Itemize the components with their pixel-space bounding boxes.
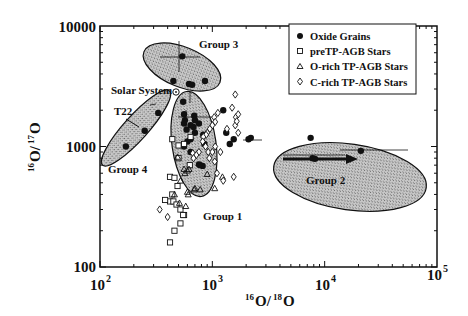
- x-tick-1e3: 10 3: [202, 273, 223, 293]
- open-diamond-point: [236, 129, 241, 136]
- filled-circle-point: [220, 107, 226, 113]
- svg-text:18: 18: [273, 292, 283, 302]
- open-diamond-point: [231, 173, 236, 180]
- open-square-point: [178, 207, 183, 212]
- legend: Oxide Grains preTP-AGB Stars O-rich TP-A…: [289, 24, 416, 94]
- solar-system-label: Solar System: [111, 84, 172, 96]
- filled-circle-point: [180, 99, 186, 105]
- legend-filled-circle-icon: [297, 33, 303, 39]
- y-axis-title: 16 O/ 17 O: [26, 122, 43, 172]
- open-diamond-point: [233, 91, 238, 98]
- svg-text:O: O: [283, 293, 295, 309]
- filled-circle-point: [179, 53, 185, 59]
- svg-text:O/: O/: [255, 293, 272, 309]
- svg-text:10: 10: [90, 277, 105, 293]
- svg-text:2: 2: [106, 273, 111, 284]
- group1-label: Group 1: [203, 210, 242, 222]
- x-tick-1e2: 10 2: [90, 273, 111, 293]
- scatter-chart: Group 3 Solar System T22 Group 4 Group 1…: [0, 0, 468, 316]
- legend-label-crich-tp-agb: C-rich TP-AGB Stars: [310, 77, 407, 88]
- svg-text:10: 10: [202, 277, 217, 293]
- svg-text:4: 4: [331, 273, 336, 284]
- filled-circle-point: [189, 82, 195, 88]
- group3-label: Group 3: [199, 38, 239, 50]
- group2-label: Group 2: [306, 174, 346, 186]
- open-diamond-point: [215, 109, 220, 116]
- filled-circle-point: [191, 113, 197, 119]
- filled-circle-point: [196, 161, 202, 167]
- filled-circle-point: [307, 135, 313, 141]
- legend-label-orich-tp-agb: O-rich TP-AGB Stars: [310, 61, 408, 72]
- filled-circle-point: [183, 126, 189, 132]
- legend-label-pretp-agb: preTP-AGB Stars: [310, 46, 391, 57]
- y-tick-1000: 1000: [66, 139, 96, 155]
- group4-ellipse: [94, 83, 179, 173]
- open-square-point: [163, 197, 168, 202]
- filled-circle-point: [227, 141, 233, 147]
- svg-text:17: 17: [26, 135, 36, 145]
- filled-circle-point: [123, 143, 129, 149]
- x-axis-title: 16 O/ 18 O: [245, 292, 295, 309]
- svg-text:10: 10: [315, 277, 330, 293]
- open-triangle-point: [183, 203, 189, 208]
- svg-text:O/: O/: [27, 145, 43, 162]
- group4-label: Group 4: [108, 163, 148, 175]
- open-diamond-point: [218, 148, 223, 155]
- y-tick-10000: 10000: [59, 19, 97, 35]
- filled-circle-point: [196, 120, 202, 126]
- open-diamond-point: [157, 206, 162, 213]
- filled-circle-point: [202, 78, 208, 84]
- svg-text:O: O: [27, 122, 43, 134]
- filled-circle-point: [155, 110, 161, 116]
- open-diamond-point: [230, 104, 235, 111]
- svg-text:16: 16: [26, 163, 36, 173]
- open-square-point: [167, 240, 172, 245]
- y-tick-100: 100: [74, 259, 97, 275]
- open-square-point: [170, 137, 175, 142]
- filled-circle-point: [358, 148, 364, 154]
- t22-label: T22: [114, 105, 133, 117]
- open-diamond-point: [165, 213, 170, 220]
- open-square-point: [172, 228, 177, 233]
- svg-text:5: 5: [443, 263, 448, 274]
- open-square-point: [181, 212, 186, 217]
- group2-ellipse: [269, 134, 431, 221]
- x-tick-1e4: 10 4: [315, 273, 336, 293]
- open-square-point: [176, 143, 181, 148]
- open-square-point: [181, 141, 186, 146]
- open-square-point: [172, 175, 177, 180]
- open-square-point: [178, 221, 183, 226]
- svg-text:10: 10: [427, 267, 442, 283]
- open-square-point: [175, 183, 180, 188]
- svg-text:16: 16: [245, 292, 255, 302]
- legend-open-square-icon: [298, 49, 303, 54]
- open-square-point: [188, 134, 193, 139]
- solar-system-marker: [173, 89, 179, 95]
- legend-label-oxide-grains: Oxide Grains: [310, 31, 370, 42]
- svg-text:3: 3: [218, 273, 223, 284]
- filled-circle-point: [142, 128, 148, 134]
